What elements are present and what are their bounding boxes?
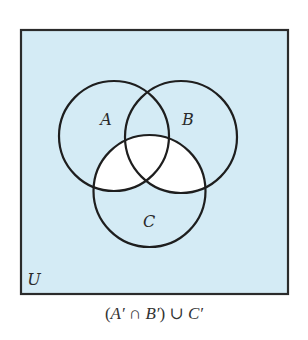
venn-diagram: A B C U (A′ ∩ B′) ∪ C′ (0, 0, 308, 340)
caption-b-prime: B′ (145, 304, 159, 323)
diagram-caption: (A′ ∩ B′) ∪ C′ (105, 304, 203, 323)
label-set-a: A (98, 110, 112, 129)
caption-intersect-symbol: ∩ (125, 304, 146, 323)
label-set-c: C (143, 212, 155, 231)
caption-a-prime: A′ (110, 304, 125, 323)
label-universe: U (27, 270, 41, 289)
caption-union-symbol: ∪ (165, 304, 188, 323)
caption-c-prime: C′ (188, 304, 203, 323)
label-set-b: B (181, 110, 194, 129)
